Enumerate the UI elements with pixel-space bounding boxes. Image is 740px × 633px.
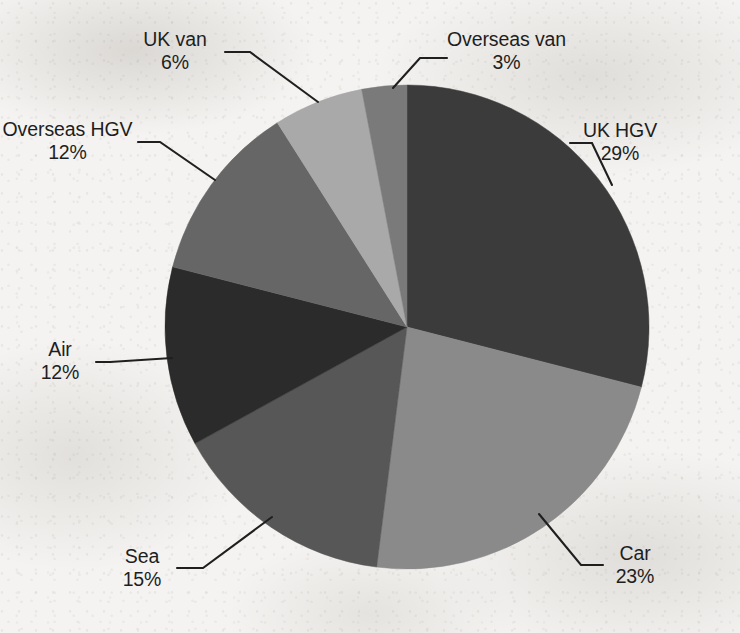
slice-label-uk-van-name: UK van [127, 28, 223, 51]
leader-line-air [96, 358, 172, 362]
slice-label-car-name: Car [604, 542, 666, 565]
pie-chart: Overseas van 3% UK van 6% Overseas HGV 1… [0, 0, 740, 633]
slice-label-uk-van-percent: 6% [127, 51, 223, 74]
pie-chart-svg [0, 0, 740, 633]
slice-label-air: Air 12% [28, 338, 92, 384]
slice-label-sea-name: Sea [110, 545, 174, 568]
slice-label-overseas-hgv: Overseas HGV 12% [0, 118, 135, 164]
slice-label-uk-hgv-name: UK HGV [574, 119, 666, 142]
slice-label-air-percent: 12% [28, 361, 92, 384]
slice-label-sea-percent: 15% [110, 568, 174, 591]
slice-label-uk-hgv: UK HGV 29% [574, 119, 666, 165]
slice-label-overseas-van-name: Overseas van [447, 28, 566, 51]
leader-line-overseas-hgv [138, 142, 215, 180]
slice-label-overseas-van: Overseas van 3% [447, 28, 566, 74]
slice-label-overseas-van-percent: 3% [447, 51, 566, 74]
slice-label-car: Car 23% [604, 542, 666, 588]
slice-label-air-name: Air [28, 338, 92, 361]
leader-line-overseas-van [393, 58, 447, 88]
slice-label-overseas-hgv-name: Overseas HGV [0, 118, 135, 141]
slice-label-sea: Sea 15% [110, 545, 174, 591]
leader-line-sea [177, 517, 272, 568]
slice-label-uk-van: UK van 6% [127, 28, 223, 74]
slice-label-uk-hgv-percent: 29% [574, 142, 666, 165]
slice-label-car-percent: 23% [604, 565, 666, 588]
leader-line-uk-van [225, 52, 318, 102]
slice-label-overseas-hgv-percent: 12% [0, 141, 135, 164]
